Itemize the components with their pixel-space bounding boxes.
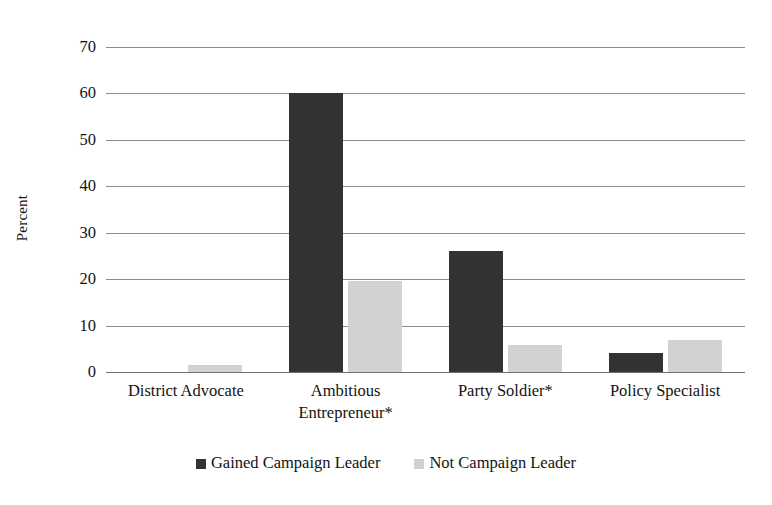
- legend-label: Gained Campaign Leader: [211, 455, 381, 472]
- bar: [348, 281, 402, 372]
- y-axis-tick-labels: 706050403020100: [40, 47, 96, 372]
- bar: [289, 93, 343, 372]
- bar: [609, 353, 663, 373]
- bar-group: [266, 47, 426, 372]
- gridline-0: [106, 372, 745, 373]
- bar-group: [585, 47, 745, 372]
- y-tick-label-20: 20: [50, 271, 96, 288]
- y-tick-label-60: 60: [50, 85, 96, 102]
- y-tick-label-30: 30: [50, 225, 96, 242]
- bar: [188, 365, 242, 372]
- legend-item[interactable]: Not Campaign Leader: [414, 455, 576, 472]
- bar: [508, 345, 562, 372]
- x-tick-label: District Advocate: [106, 380, 266, 402]
- legend-swatch-icon: [196, 459, 206, 469]
- x-tick-label: Ambitious Entrepreneur*: [266, 380, 426, 424]
- bars-layer: [106, 47, 745, 372]
- legend-item[interactable]: Gained Campaign Leader: [196, 455, 381, 472]
- bar-chart-figure: Percent 706050403020100 District Advocat…: [0, 0, 772, 505]
- bar: [668, 340, 722, 372]
- legend-swatch-icon: [414, 459, 424, 469]
- y-axis-title: Percent: [14, 148, 36, 288]
- y-tick-label-50: 50: [50, 132, 96, 149]
- bar-group: [426, 47, 586, 372]
- plot-area: [106, 47, 745, 372]
- legend-label: Not Campaign Leader: [429, 455, 576, 472]
- y-tick-label-10: 10: [50, 318, 96, 335]
- bar-group: [106, 47, 266, 372]
- y-tick-label-40: 40: [50, 178, 96, 195]
- x-axis-tick-labels: District AdvocateAmbitious Entrepreneur*…: [106, 380, 745, 438]
- x-tick-label: Policy Specialist: [585, 380, 745, 402]
- y-tick-label-0: 0: [50, 364, 96, 381]
- y-tick-label-70: 70: [50, 39, 96, 56]
- bar: [449, 251, 503, 372]
- chart-legend: Gained Campaign LeaderNot Campaign Leade…: [0, 455, 772, 472]
- x-tick-label: Party Soldier*: [426, 380, 586, 402]
